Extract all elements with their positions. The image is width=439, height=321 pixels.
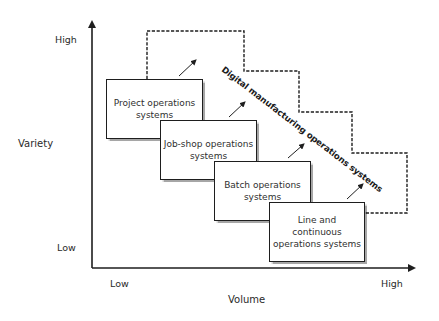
box-line-continuous-operations: Line and continuous operations systems bbox=[269, 202, 365, 262]
x-axis-low-label: Low bbox=[110, 279, 129, 289]
arrow-icon bbox=[179, 60, 196, 76]
y-axis-low-label: Low bbox=[57, 243, 76, 253]
box-label-line2: operations systems bbox=[272, 238, 362, 250]
y-axis-title: Variety bbox=[18, 139, 53, 149]
arrow-icon bbox=[347, 184, 363, 199]
box-label-line1: Batch operations bbox=[224, 179, 301, 191]
y-axis-high-label: High bbox=[55, 35, 77, 45]
x-axis-high-label: High bbox=[381, 279, 403, 289]
box-label-line1: Job-shop operations bbox=[164, 138, 254, 150]
box-label-line1: Project operations bbox=[114, 97, 196, 109]
arrow-icon bbox=[229, 102, 245, 117]
x-axis-title: Volume bbox=[228, 295, 265, 305]
arrow-icon bbox=[288, 144, 304, 158]
box-label-line1: Line and continuous bbox=[272, 214, 362, 238]
